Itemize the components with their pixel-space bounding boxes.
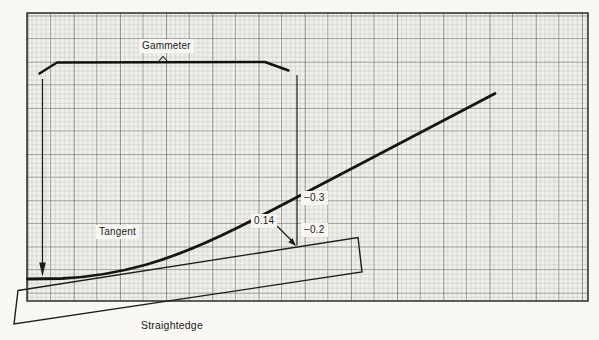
reading-lower-label: −0.2 xyxy=(301,223,328,237)
offset-value-label: 0.14 xyxy=(251,214,277,228)
tangent-label: Tangent xyxy=(96,225,139,239)
diagram-artwork xyxy=(0,0,599,340)
figure-canvas: Gammeter Tangent 0.14 −0.3 −0.2 Straight… xyxy=(0,0,599,340)
graph-paper-grid xyxy=(27,13,588,301)
gammeter-label: Gammeter xyxy=(139,39,194,53)
reading-upper-label: −0.3 xyxy=(301,191,328,205)
straightedge-label: Straightedge xyxy=(138,318,206,332)
